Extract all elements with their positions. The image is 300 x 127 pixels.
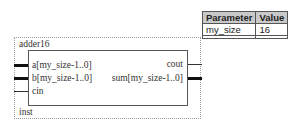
symbol-name: adder16 <box>19 39 50 49</box>
parameter-name: my_size <box>203 24 256 36</box>
header-parameter: Parameter <box>203 12 256 24</box>
input-pin-a-wire[interactable] <box>14 64 28 67</box>
port-label-b: b[my_size-1..0] <box>32 73 92 83</box>
parameter-table-header: Parameter Value <box>203 12 288 24</box>
parameter-row[interactable]: my_size 16 <box>203 24 288 36</box>
parameter-table: Parameter Value my_size 16 <box>202 11 288 39</box>
port-label-cin: cin <box>32 86 44 96</box>
header-value: Value <box>256 12 288 24</box>
port-label-cout: cout <box>167 59 183 69</box>
output-pin-cout-wire[interactable] <box>188 64 202 65</box>
parameter-value[interactable]: 16 <box>256 24 288 36</box>
port-label-sum: sum[my_size-1..0] <box>112 73 183 83</box>
input-pin-cin-wire[interactable] <box>14 91 28 92</box>
instance-name: inst <box>19 107 33 117</box>
output-pin-sum-wire[interactable] <box>188 77 202 80</box>
parameter-table-footer <box>203 36 288 39</box>
input-pin-b-wire[interactable] <box>14 77 28 80</box>
port-label-a: a[my_size-1..0] <box>32 60 92 70</box>
